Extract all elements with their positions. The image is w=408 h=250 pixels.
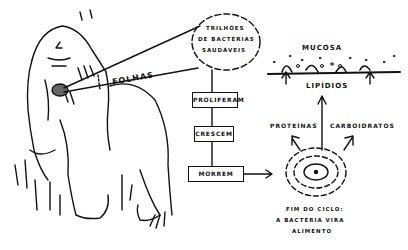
arrow-to-proteins (292, 136, 300, 150)
end-line-1: FIM DO CICLO: (286, 206, 344, 212)
bubble-line-2: DE BACTÉRIAS (198, 36, 255, 42)
flow-step-die: MORREM (188, 166, 244, 182)
label-carbs: CARBOIDRATOS (330, 122, 395, 129)
leaf-bundle (52, 84, 68, 96)
flow-step-grow: CRESCEM (194, 126, 234, 142)
label-mucosa: MUCOSA (302, 44, 342, 52)
label-lipids: LIPÍDIOS (306, 82, 348, 90)
diagram-canvas: FOLHAS TRILHÕES DE BACTÉRIAS SAUDÁVEIS P… (0, 0, 408, 250)
mucosa-particles (273, 55, 395, 67)
bubble-line-3: SAUDÁVEIS (202, 47, 246, 53)
gorilla-illustration (15, 10, 172, 228)
arrow-to-carbs (344, 136, 353, 150)
end-line-3: ALIMENTO (292, 228, 332, 234)
end-line-2: A BACTÉRIA VIRA (276, 217, 344, 223)
bacteria-bubble (192, 14, 260, 70)
label-proteins: PROTEÍNAS (270, 122, 318, 129)
flow-step-proliferate: PROLIFERAM (192, 92, 238, 108)
arrow-to-lipids (318, 96, 326, 150)
bubble-line-1: TRILHÕES (206, 25, 245, 31)
arrow-up-right (366, 72, 374, 84)
arrow-to-cycle (244, 170, 272, 178)
